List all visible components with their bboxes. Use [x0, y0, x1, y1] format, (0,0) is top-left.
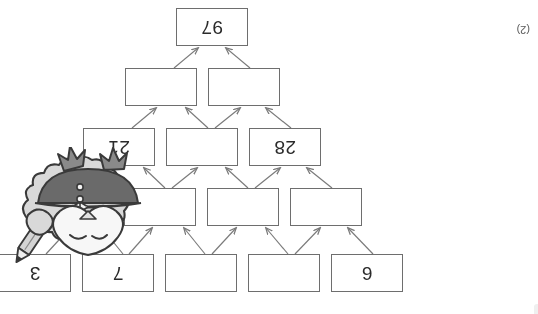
mascot-character-icon — [8, 147, 168, 272]
pyramid-cell-r1c1[interactable]: 6 — [331, 254, 403, 292]
pyramid-cell-r4c2[interactable] — [125, 68, 197, 106]
pyramid-cell-r4c1[interactable] — [208, 68, 280, 106]
mark-allocation: (2) — [517, 24, 530, 36]
pyramid-cell-r1c3[interactable] — [165, 254, 237, 292]
pyramid-cell-r3c1[interactable]: 28 — [249, 128, 321, 166]
pyramid-cell-r3c2[interactable] — [166, 128, 238, 166]
pyramid-cell-r2c1[interactable] — [290, 188, 362, 226]
pyramid-cell-r1c2[interactable] — [248, 254, 320, 292]
pyramid-cell-r5c1[interactable]: 97 — [176, 8, 248, 46]
worksheet-page: 6 7 3 28 21 97 (2) — [0, 0, 538, 314]
pyramid-cell-r2c2[interactable] — [207, 188, 279, 226]
